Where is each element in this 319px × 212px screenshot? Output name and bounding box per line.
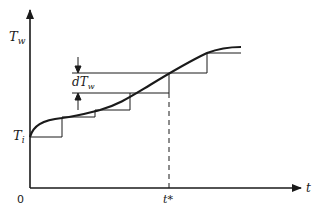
- initial-temp-label: Ti: [13, 128, 25, 145]
- t-star-label: t*: [163, 193, 173, 206]
- staircase: [30, 53, 241, 137]
- origin-label: 0: [17, 193, 24, 206]
- x-axis-label: t: [306, 181, 311, 195]
- y-axis-label: Tw: [9, 29, 26, 46]
- dtw-label: dTw: [72, 75, 95, 91]
- diagram-canvas: Tw Ti dTw 0 t* t: [0, 0, 319, 212]
